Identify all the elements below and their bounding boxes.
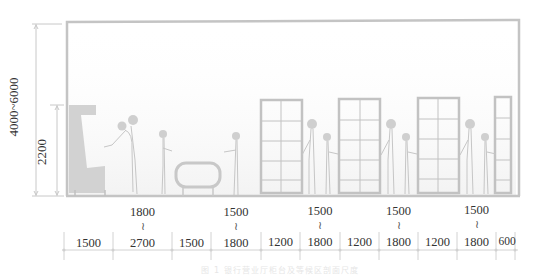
dim-label-1-bottom: 1500 [64,237,113,250]
dim-label-10-bottom: 1800 [457,236,496,249]
dim-label-11-bottom: 600 [496,236,518,248]
dim-label-6-top: 1500 [300,205,340,218]
dim-label-8-tilde: ≀ [379,219,418,232]
dim-label-8-bottom: 1800 [379,236,418,249]
dim-label-4-tilde: ≀ [211,220,261,233]
partition-height-label: 2200 [34,132,50,172]
dim-label-6-tilde: ≀ [300,219,340,232]
dim-label-10-top: 1500 [457,204,496,217]
dim-label-3-bottom: 1500 [172,237,211,250]
dim-label-5-bottom: 1200 [261,236,300,249]
room-height-label: 4000~6000 [6,77,22,137]
dim-label-10-tilde: ≀ [457,218,496,231]
dim-label-4-bottom: 1800 [211,237,261,250]
dim-label-2-bottom: 2700 [113,237,172,250]
dim-label-8-top: 1500 [379,205,418,218]
dim-label-4-top: 1500 [211,206,261,219]
figure-caption: 图 1 银行营业厅柜台及等候区剖面尺度 [150,264,410,275]
dim-label-2-top: 1800 [113,206,172,219]
dim-label-2-tilde: ≀ [113,220,172,233]
dim-label-9-bottom: 1200 [418,236,457,249]
dim-label-7-bottom: 1200 [340,236,379,249]
dim-label-6-bottom: 1800 [300,236,340,249]
room-outline [66,20,520,196]
